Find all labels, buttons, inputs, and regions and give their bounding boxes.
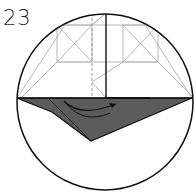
dark-flap	[17, 98, 192, 141]
origami-diagram	[0, 0, 196, 193]
crease-pattern	[17, 13, 192, 98]
